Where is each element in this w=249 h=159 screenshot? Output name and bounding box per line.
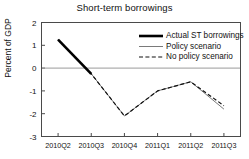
y-tick-label: -2: [29, 110, 37, 119]
x-tick-label: 2010Q4: [112, 141, 138, 150]
x-tick-label: 2011Q2: [178, 141, 203, 150]
legend-label: Actual ST borrowings: [166, 31, 244, 40]
series-line: [58, 40, 224, 116]
chart-figure: Short-term borrowings Percent of GDP 210…: [0, 0, 249, 159]
data-series-group: [58, 40, 224, 116]
series-line: [58, 40, 91, 74]
y-tick-labels: 210-1-2-3: [29, 19, 37, 142]
x-tick-label: 2011Q3: [211, 141, 236, 150]
x-tick-label: 2011Q1: [145, 141, 170, 150]
legend-label: Policy scenario: [166, 42, 222, 51]
y-tick-label: 1: [32, 41, 37, 50]
y-tick-label: -1: [29, 87, 37, 96]
y-tick-marks: [42, 23, 46, 137]
y-tick-label: -3: [29, 133, 37, 142]
x-tick-marks: [58, 133, 224, 137]
y-tick-label: 2: [32, 19, 37, 28]
x-tick-label: 2010Q2: [45, 141, 71, 150]
chart-legend: Actual ST borrowingsPolicy scenarioNo po…: [139, 31, 244, 61]
x-tick-label: 2010Q3: [78, 141, 104, 150]
legend-label: No policy scenario: [166, 52, 233, 61]
series-line: [58, 40, 224, 116]
y-tick-label: 0: [32, 64, 37, 73]
x-tick-labels: 2010Q22010Q32010Q42011Q12011Q22011Q3: [45, 141, 236, 150]
plot-area: 210-1-2-3 2010Q22010Q32010Q42011Q12011Q2…: [0, 0, 249, 159]
